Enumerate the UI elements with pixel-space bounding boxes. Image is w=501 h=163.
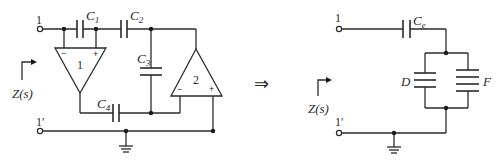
right-circuit: 1 1′ Z(s) Ce D F bbox=[308, 11, 492, 153]
ground-icon bbox=[119, 131, 133, 152]
terminal-1 bbox=[37, 26, 42, 31]
opamp-1-label: 1 bbox=[77, 58, 83, 72]
ce-label: Ce bbox=[413, 13, 426, 30]
terminal-1-prime bbox=[37, 128, 42, 133]
opamp-2-label: 2 bbox=[193, 73, 199, 87]
capacitor-c2 bbox=[121, 20, 127, 38]
f-label: F bbox=[482, 74, 492, 89]
element-f bbox=[456, 70, 479, 91]
terminal-1-prime-label: 1′ bbox=[36, 115, 45, 129]
element-d bbox=[414, 73, 436, 87]
impedance-label: Z(s) bbox=[308, 101, 329, 116]
opamp-2-plus: + bbox=[209, 84, 214, 94]
implies-arrow-icon: ⇒ bbox=[254, 73, 269, 94]
opamp-1-minus: − bbox=[61, 48, 66, 58]
terminal-1-label: 1 bbox=[36, 13, 42, 27]
c4-label: C4 bbox=[97, 96, 111, 113]
impedance-arrow-icon bbox=[318, 77, 332, 96]
capacitor-c3 bbox=[140, 68, 162, 75]
ground-icon bbox=[387, 133, 401, 153]
capacitor-c1 bbox=[77, 20, 83, 38]
circuit-diagram: 1 1′ Z(s) C1 C2 C3 C4 − + 1 − + 2 ⇒ bbox=[0, 0, 501, 163]
terminal-1 bbox=[336, 26, 341, 31]
c2-label: C2 bbox=[130, 8, 144, 25]
terminal-1-prime bbox=[336, 130, 341, 135]
impedance-label: Z(s) bbox=[12, 86, 33, 101]
left-circuit: 1 1′ Z(s) C1 C2 C3 C4 − + 1 − + 2 bbox=[12, 8, 222, 152]
terminal-1-label: 1 bbox=[335, 11, 341, 25]
opamp-2-minus: − bbox=[177, 84, 182, 94]
capacitor-ce bbox=[403, 20, 410, 38]
opamp-1-plus: + bbox=[93, 49, 98, 59]
c1-label: C1 bbox=[86, 8, 99, 25]
d-label: D bbox=[400, 74, 411, 89]
impedance-arrow-icon bbox=[22, 59, 37, 80]
capacitor-c4 bbox=[113, 104, 119, 122]
terminal-1-prime-label: 1′ bbox=[335, 115, 344, 129]
c3-label: C3 bbox=[137, 51, 151, 68]
